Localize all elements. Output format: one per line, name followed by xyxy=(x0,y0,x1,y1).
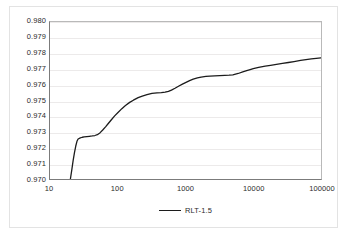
series-line-rlt-1-5 xyxy=(50,22,321,179)
y-axis-tick-label: 0.978 xyxy=(4,49,46,57)
y-axis-tick-labels: 0.9700.9710.9720.9730.9740.9750.9760.977… xyxy=(2,21,46,180)
y-axis-tick-label: 0.977 xyxy=(4,65,46,73)
legend-line-swatch xyxy=(159,210,181,211)
x-axis-tick-label: 100 xyxy=(111,184,124,193)
y-axis-tick-label: 0.973 xyxy=(4,128,46,136)
plot-area xyxy=(49,21,322,180)
y-axis-tick-label: 0.972 xyxy=(4,144,46,152)
y-axis-tick-label: 0.976 xyxy=(4,81,46,89)
y-axis-tick-label: 0.971 xyxy=(4,160,46,168)
y-axis-tick-label: 0.980 xyxy=(4,17,46,25)
y-axis-tick-label: 0.979 xyxy=(4,33,46,41)
legend-label-rlt-1-5: RLT-1.5 xyxy=(185,206,212,215)
x-axis-tick-label: 10000 xyxy=(243,184,264,193)
y-axis-tick-label: 0.975 xyxy=(4,97,46,105)
x-axis-tick-label: 1000 xyxy=(177,184,194,193)
x-axis-tick-label: 100000 xyxy=(309,184,335,193)
x-axis-tick-label: 10 xyxy=(45,184,54,193)
x-axis-tick-labels: 10100100010000100000 xyxy=(49,184,322,196)
chart-container: 0.9700.9710.9720.9730.9740.9750.9760.977… xyxy=(0,0,348,237)
y-axis-tick-label: 0.970 xyxy=(4,176,46,184)
y-axis-tick-label: 0.974 xyxy=(4,112,46,120)
chart-legend: RLT-1.5 xyxy=(49,203,322,217)
